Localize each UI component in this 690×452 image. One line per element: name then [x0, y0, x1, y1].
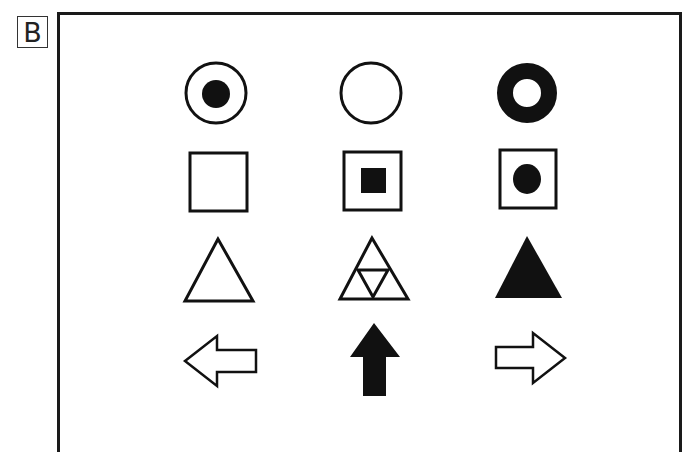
square-with-filled-dot [500, 150, 556, 208]
circle-with-filled-dot [186, 63, 246, 123]
empty-triangle [185, 239, 253, 301]
right-arrow-outline [496, 333, 565, 383]
square-with-filled-square [344, 152, 401, 210]
triangle-with-inverted-triangle [340, 238, 408, 299]
empty-square [190, 153, 247, 211]
left-arrow-outline [185, 336, 256, 386]
empty-circle [341, 63, 401, 123]
up-arrow-filled [350, 323, 400, 396]
thick-ring [505, 71, 549, 115]
filled-triangle [495, 236, 562, 298]
